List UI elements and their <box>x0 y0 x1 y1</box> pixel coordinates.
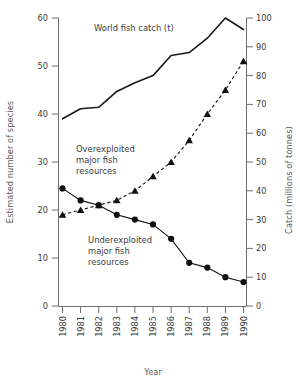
x-tick-labels: 1980 1981 1982 1983 1984 1985 1986 1987 … <box>58 316 249 337</box>
x-axis-title: Year <box>143 367 162 377</box>
annotation-underexploited-line1: Underexploited <box>88 235 152 245</box>
chart-figure: 60 50 40 30 20 10 0 Estimated number of … <box>0 0 300 382</box>
y-right-tick-60: 60 <box>256 128 266 138</box>
x-axis: 1980 1981 1982 1983 1984 1985 1986 1987 … <box>58 307 249 378</box>
y-right-tick-100: 100 <box>256 13 272 23</box>
x-ticks <box>63 307 244 314</box>
y-left-tick-10: 10 <box>38 253 48 263</box>
data-point-triangle <box>77 206 85 213</box>
data-point-triangle <box>131 187 139 194</box>
data-point-triangle <box>167 158 175 165</box>
x-tick-1984: 1984 <box>130 316 140 337</box>
y-left-tick-0: 0 <box>43 301 48 311</box>
y-right-axis-title: Catch (millions of tonnes) <box>284 126 294 234</box>
x-tick-1982: 1982 <box>94 316 104 337</box>
annotation-overexploited: Overexploited major fish resources <box>76 144 135 176</box>
y-right-tick-90: 90 <box>256 42 266 52</box>
y-right-tick-40: 40 <box>256 186 266 196</box>
data-point-circle <box>240 279 246 285</box>
data-point-triangle <box>149 173 157 180</box>
annotation-overexploited-line1: Overexploited <box>76 144 135 154</box>
data-point-circle <box>114 212 120 218</box>
data-point-circle <box>132 217 138 223</box>
y-left-ticks <box>52 18 59 306</box>
data-point-circle <box>186 260 192 266</box>
x-tick-1987: 1987 <box>184 316 194 337</box>
data-point-circle <box>204 265 210 271</box>
annotation-underexploited: Underexploited major fish resources <box>88 235 152 267</box>
x-tick-1989: 1989 <box>220 316 230 337</box>
annotation-world-fish-catch: World fish catch (t) <box>94 23 174 33</box>
series-world-fish-catch-line <box>63 18 244 119</box>
x-tick-1981: 1981 <box>76 316 86 337</box>
fish-catch-chart: 60 50 40 30 20 10 0 Estimated number of … <box>0 0 300 382</box>
data-point-triangle <box>185 137 193 144</box>
y-right-tick-20: 20 <box>256 243 266 253</box>
x-tick-1980: 1980 <box>58 316 68 337</box>
series-overexploited-markers <box>59 58 248 218</box>
x-tick-1985: 1985 <box>148 316 158 337</box>
annotation-overexploited-line2: major fish <box>76 155 118 165</box>
y-right-axis: 100 90 80 70 60 50 40 30 20 10 0 Catch (… <box>247 13 295 311</box>
y-left-tick-60: 60 <box>38 13 48 23</box>
x-tick-1983: 1983 <box>112 316 122 337</box>
y-right-tick-50: 50 <box>256 157 266 167</box>
annotation-overexploited-line3: resources <box>76 166 117 176</box>
annotation-layer: World fish catch (t) Overexploited major… <box>76 23 174 267</box>
annotation-underexploited-line3: resources <box>88 257 129 267</box>
y-right-tick-30: 30 <box>256 215 266 225</box>
x-tick-1990: 1990 <box>239 316 249 337</box>
y-right-tick-10: 10 <box>256 272 266 282</box>
y-left-axis-title: Estimated number of species <box>5 101 15 223</box>
x-tick-1988: 1988 <box>202 316 212 337</box>
data-point-triangle <box>113 197 121 204</box>
x-tick-1986: 1986 <box>166 316 176 337</box>
y-left-axis: 60 50 40 30 20 10 0 Estimated number of … <box>5 13 59 311</box>
data-point-triangle <box>222 86 230 93</box>
data-point-circle <box>168 236 174 242</box>
data-point-circle <box>78 197 84 203</box>
y-left-tick-20: 20 <box>38 205 48 215</box>
data-point-circle <box>222 274 228 280</box>
data-point-circle <box>59 185 65 191</box>
y-right-tick-80: 80 <box>256 71 266 81</box>
data-point-circle <box>150 221 156 227</box>
y-left-tick-40: 40 <box>38 109 48 119</box>
y-right-tick-70: 70 <box>256 99 266 109</box>
y-right-ticks <box>247 18 254 306</box>
series-overexploited-line <box>63 61 244 215</box>
annotation-underexploited-line2: major fish <box>88 246 130 256</box>
data-point-circle <box>96 202 102 208</box>
y-right-tick-0: 0 <box>256 301 261 311</box>
y-left-tick-50: 50 <box>38 61 48 71</box>
y-left-tick-30: 30 <box>38 157 48 167</box>
